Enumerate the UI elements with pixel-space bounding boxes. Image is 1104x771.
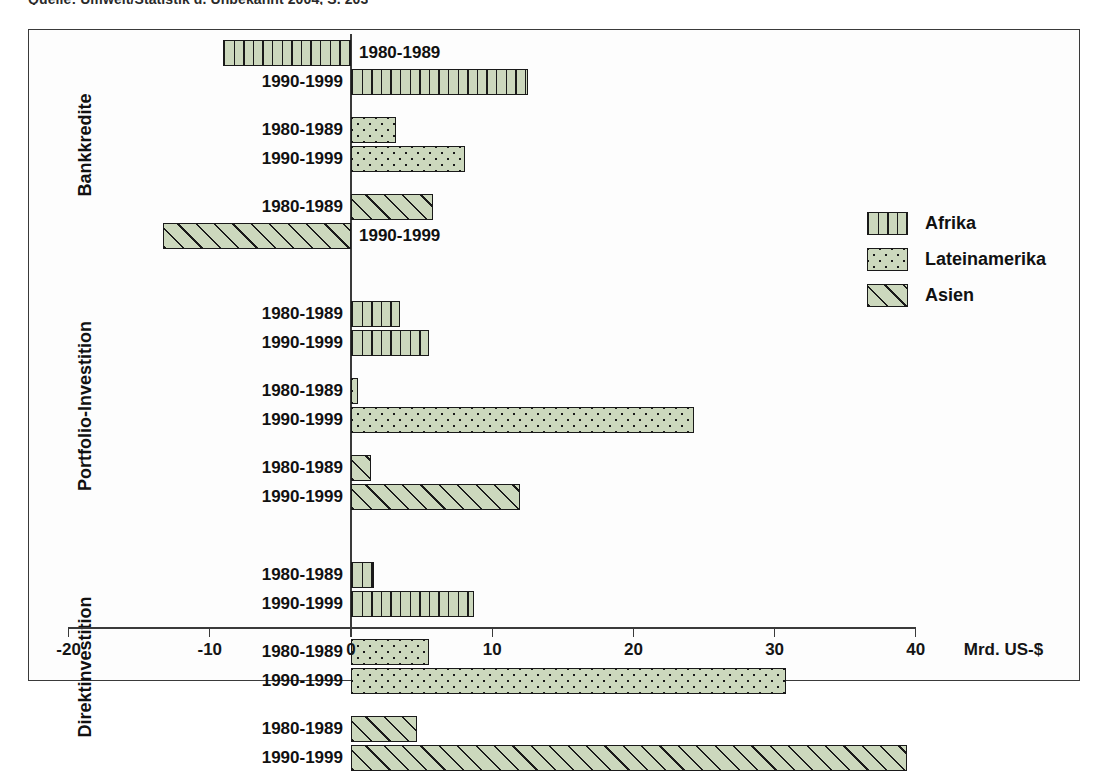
group-label-portfolio-investition: Portfolio-Investition [75,321,96,491]
source-caption: Quelle: Umwelt/Statistik d. Unbekannt 20… [28,0,368,5]
period-label: 1990-1999 [262,411,343,428]
bar-direktinvestition-asien-1990-1999 [351,745,907,771]
bar-portfolio-investition-lateinamerika-1980-1989 [351,378,358,404]
period-label: 1980-1989 [262,566,343,583]
period-label: 1990-1999 [359,227,440,244]
period-label: 1990-1999 [262,595,343,612]
period-label: 1980-1989 [262,643,343,660]
group-label-bankkredite: Bankkredite [75,93,96,196]
x-tick-30 [774,627,775,637]
period-label: 1990-1999 [262,672,343,689]
period-label: 1990-1999 [262,488,343,505]
bar-direktinvestition-lateinamerika-1990-1999 [351,668,786,694]
period-label: 1980-1989 [262,121,343,138]
legend-item-asien: Asien [867,280,1097,310]
legend-label: Asien [925,285,974,306]
bar-bankkredite-lateinamerika-1990-1999 [351,146,465,172]
x-tick-label-40: 40 [906,640,925,660]
x-tick-20 [633,627,634,637]
bar-portfolio-investition-afrika-1990-1999 [351,330,429,356]
x-tick-label-20: 20 [624,640,643,660]
x-tick-label-30: 30 [765,640,784,660]
period-label: 1990-1999 [262,150,343,167]
bar-bankkredite-afrika-1980-1989 [223,40,351,66]
x-tick--10 [209,627,210,637]
x-tick-label--10: -10 [198,640,223,660]
chart-legend: AfrikaLateinamerikaAsien [867,208,1097,316]
bar-direktinvestition-asien-1980-1989 [351,716,417,742]
legend-swatch-asien [867,284,908,307]
bar-portfolio-investition-asien-1990-1999 [351,484,520,510]
period-label: 1990-1999 [262,334,343,351]
chart-frame: 1980-19891990-19991980-19891990-19991980… [28,29,1080,681]
period-label: 1990-1999 [262,73,343,90]
legend-swatch-afrika [867,212,908,235]
legend-label: Afrika [925,213,976,234]
bar-direktinvestition-lateinamerika-1980-1989 [351,639,429,665]
x-tick-label-10: 10 [483,640,502,660]
period-label: 1980-1989 [262,382,343,399]
period-label: 1980-1989 [262,305,343,322]
legend-swatch-lateinamerika [867,248,908,271]
bar-direktinvestition-afrika-1990-1999 [351,591,474,617]
x-tick--20 [68,627,69,637]
legend-item-lateinamerika: Lateinamerika [867,244,1097,274]
bar-portfolio-investition-asien-1980-1989 [351,455,371,481]
x-tick-0 [350,627,351,637]
bar-bankkredite-lateinamerika-1980-1989 [351,117,396,143]
x-axis-unit-label: Mrd. US-$ [964,640,1043,660]
x-tick-40 [915,627,916,637]
bar-portfolio-investition-lateinamerika-1990-1999 [351,407,694,433]
x-tick-label-0: 0 [346,640,355,660]
period-label: 1980-1989 [359,44,440,61]
group-label-direktinvestition: Direktinvestition [75,596,96,737]
bar-bankkredite-asien-1990-1999 [163,223,351,249]
bar-direktinvestition-afrika-1980-1989 [351,562,374,588]
period-label: 1980-1989 [262,459,343,476]
plot-area: 1980-19891990-19991980-19891990-19991980… [29,30,1081,682]
bar-bankkredite-afrika-1990-1999 [351,69,528,95]
x-tick-label--20: -20 [56,640,81,660]
x-tick-10 [492,627,493,637]
legend-label: Lateinamerika [925,249,1046,270]
period-label: 1990-1999 [262,749,343,766]
bar-bankkredite-asien-1980-1989 [351,194,433,220]
period-label: 1980-1989 [262,198,343,215]
legend-item-afrika: Afrika [867,208,1097,238]
bar-portfolio-investition-afrika-1980-1989 [351,301,400,327]
period-label: 1980-1989 [262,720,343,737]
